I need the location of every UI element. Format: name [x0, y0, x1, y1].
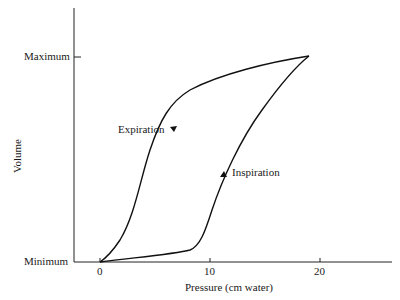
x-tick-label-20: 20: [314, 265, 325, 277]
y-axis-label: Volume: [11, 131, 23, 181]
expiration-arrow-icon: [170, 126, 177, 132]
expiration-annotation: Expiration: [118, 123, 164, 135]
x-tick-label-0: 0: [97, 265, 103, 277]
x-tick-label-10: 10: [204, 265, 215, 277]
inspiration-annotation: Inspiration: [232, 166, 280, 178]
y-tick-label-maximum: Maximum: [24, 50, 70, 62]
y-tick-label-minimum: Minimum: [24, 255, 68, 267]
inspiration-curve: [100, 56, 309, 262]
x-axis-label: Pressure (cm water): [185, 281, 273, 293]
